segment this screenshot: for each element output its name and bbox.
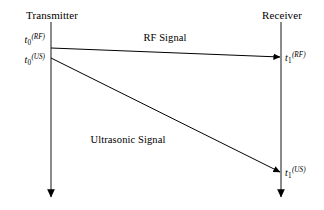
signal-timing-diagram: Transmitter Receiver RF Signal Ultrasoni… [0, 0, 324, 210]
rf-signal-arrow [51, 48, 280, 57]
ultrasonic-signal-arrow [51, 58, 280, 172]
receiver-label: Receiver [262, 10, 302, 21]
ultrasonic-signal-label: Ultrasonic Signal [91, 135, 166, 146]
time-label-t1-rf: t1(RF) [285, 52, 306, 65]
time-label-t0-rf: t0(RF) [24, 34, 45, 47]
time-label-t0-us: t0(US) [24, 54, 45, 67]
t1-rf-superscript: (RF) [292, 51, 306, 59]
t1-us-superscript: (US) [292, 166, 306, 174]
rf-signal-label: RF Signal [143, 33, 186, 44]
time-label-t1-us: t1(US) [285, 167, 306, 180]
transmitter-label: Transmitter [26, 10, 78, 21]
t0-us-superscript: (US) [31, 53, 45, 61]
t0-rf-superscript: (RF) [31, 33, 45, 41]
